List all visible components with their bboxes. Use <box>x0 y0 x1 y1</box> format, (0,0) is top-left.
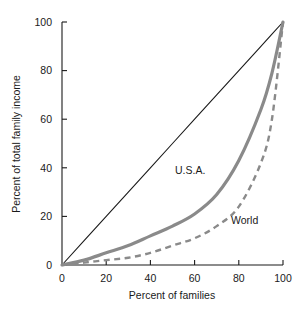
chart-canvas: 020406080100 020406080100 U.S.A. World P… <box>0 0 300 318</box>
y-tick-label-100: 100 <box>34 16 52 28</box>
x-axis-title: Percent of families <box>129 289 215 301</box>
y-tick-label-0: 0 <box>46 259 52 271</box>
y-tick-label-20: 20 <box>40 210 52 222</box>
chart-background <box>0 0 300 318</box>
x-tick-label-100: 100 <box>274 272 292 284</box>
x-tick-label-20: 20 <box>100 272 112 284</box>
lorenz-curve-chart: 020406080100 020406080100 U.S.A. World P… <box>0 0 300 318</box>
y-tick-label-40: 40 <box>40 162 52 174</box>
usa-series-label: U.S.A. <box>175 164 205 176</box>
y-tick-label-60: 60 <box>40 113 52 125</box>
y-tick-label-80: 80 <box>40 64 52 76</box>
x-tick-label-80: 80 <box>233 272 245 284</box>
x-tick-label-40: 40 <box>145 272 157 284</box>
x-tick-label-60: 60 <box>189 272 201 284</box>
world-series-label: World <box>231 214 258 226</box>
x-tick-label-0: 0 <box>59 272 65 284</box>
y-axis-title: Percent of total family income <box>10 75 22 213</box>
